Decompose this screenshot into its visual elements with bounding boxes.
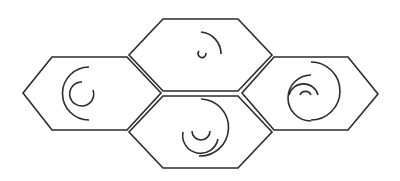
- arc-left-inner: [70, 82, 94, 106]
- arc-top-outer: [201, 32, 221, 54]
- hexagon-right: [242, 57, 378, 130]
- hexagon-top-outline: [129, 19, 272, 91]
- arc-right-tiny: [300, 91, 311, 95]
- hexagon-bottom: [129, 96, 272, 168]
- arc-bottom-inner: [192, 131, 210, 140]
- hexagon-top: [129, 19, 272, 91]
- arc-top-inner: [198, 51, 206, 58]
- arc-right-small: [289, 84, 318, 95]
- diagram-canvas: [0, 0, 400, 181]
- hexagon-diagram: Four flat-topped hexagons (left, top, bo…: [0, 0, 400, 181]
- arc-bottom-middle: [183, 132, 218, 153]
- arc-right-outer: [311, 62, 340, 120]
- arc-left-outer: [63, 67, 89, 120]
- hexagon-bottom-outline: [129, 96, 272, 168]
- arc-right-middle: [288, 75, 311, 121]
